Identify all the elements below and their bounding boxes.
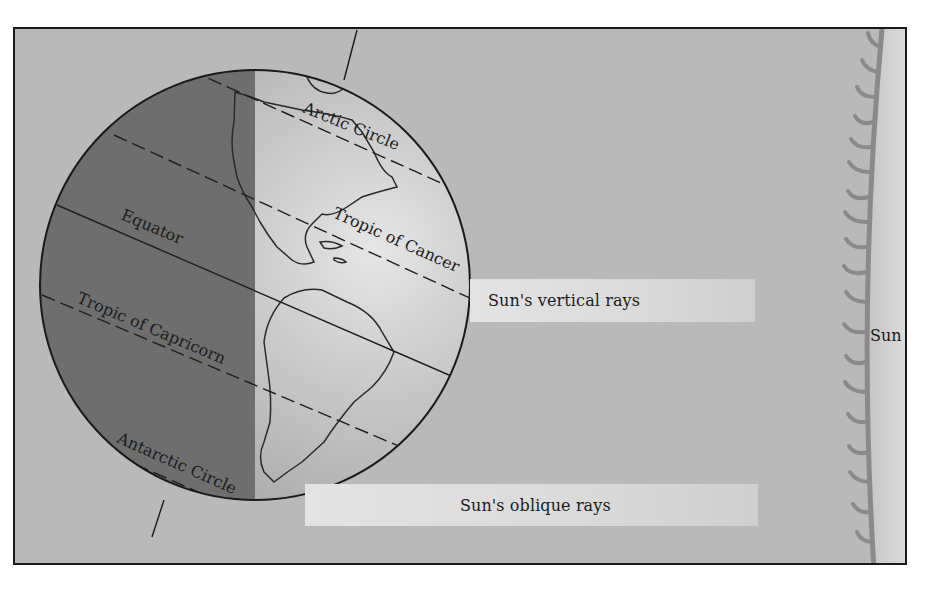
sun-vertical-rays-band: Sun's vertical rays <box>470 279 755 322</box>
sun <box>844 29 907 565</box>
page: Arctic Circle Tropic of Cancer Equator T… <box>0 0 931 592</box>
sun-label: Sun <box>870 326 902 345</box>
sun-oblique-rays-label: Sun's oblique rays <box>460 496 611 515</box>
sun-vertical-rays-label: Sun's vertical rays <box>488 291 640 310</box>
sun-oblique-rays-band: Sun's oblique rays <box>305 484 758 526</box>
diagram-frame: Arctic Circle Tropic of Cancer Equator T… <box>13 27 907 565</box>
